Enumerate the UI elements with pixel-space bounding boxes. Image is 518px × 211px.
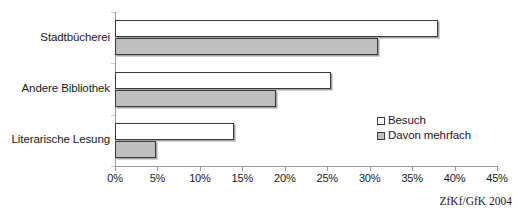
chart-legend: Besuch Davon mehrfach: [377, 113, 471, 143]
x-tick-mark: [200, 167, 201, 171]
y-tick-mark: [111, 12, 115, 13]
legend-item-besuch[interactable]: Besuch: [377, 113, 471, 128]
category-label: Literarische Lesung: [0, 133, 110, 146]
bar: [115, 20, 438, 37]
x-tick-mark: [497, 167, 498, 171]
y-tick-mark: [111, 115, 115, 116]
legend-label-besuch: Besuch: [388, 113, 426, 128]
x-tick-mark: [242, 167, 243, 171]
x-tick-label: 40%: [435, 172, 475, 185]
source-attribution: ZfKf/GfK 2004: [440, 195, 513, 208]
x-tick-mark: [285, 167, 286, 171]
x-tick-label: 10%: [180, 172, 220, 185]
x-tick-label: 25%: [307, 172, 347, 185]
bar: [115, 72, 331, 89]
category-label: Andere Bibliothek: [0, 82, 110, 95]
category-label: Stadtbücherei: [0, 31, 110, 44]
x-tick-label: 35%: [392, 172, 432, 185]
bar: [115, 90, 276, 107]
legend-item-davon-mehrfach[interactable]: Davon mehrfach: [377, 128, 471, 143]
legend-swatch-besuch-icon: [377, 117, 385, 125]
x-tick-label: 45%: [477, 172, 517, 185]
x-tick-label: 20%: [265, 172, 305, 185]
x-tick-label: 15%: [222, 172, 262, 185]
legend-label-davon-mehrfach: Davon mehrfach: [388, 128, 471, 143]
x-tick-mark: [327, 167, 328, 171]
x-tick-mark: [455, 167, 456, 171]
x-tick-mark: [412, 167, 413, 171]
x-tick-mark: [370, 167, 371, 171]
x-axis-line: [115, 166, 498, 167]
x-tick-mark: [157, 167, 158, 171]
bar: [115, 141, 156, 158]
bar: [115, 123, 234, 140]
x-tick-label: 5%: [137, 172, 177, 185]
y-tick-mark: [111, 63, 115, 64]
bar: [115, 38, 378, 55]
x-tick-mark: [115, 167, 116, 171]
legend-swatch-davon-mehrfach-icon: [377, 132, 385, 140]
x-tick-label: 30%: [350, 172, 390, 185]
x-tick-label: 0%: [95, 172, 135, 185]
bar-chart: 0%5%10%15%20%25%30%35%40%45% Stadtbücher…: [0, 0, 518, 211]
